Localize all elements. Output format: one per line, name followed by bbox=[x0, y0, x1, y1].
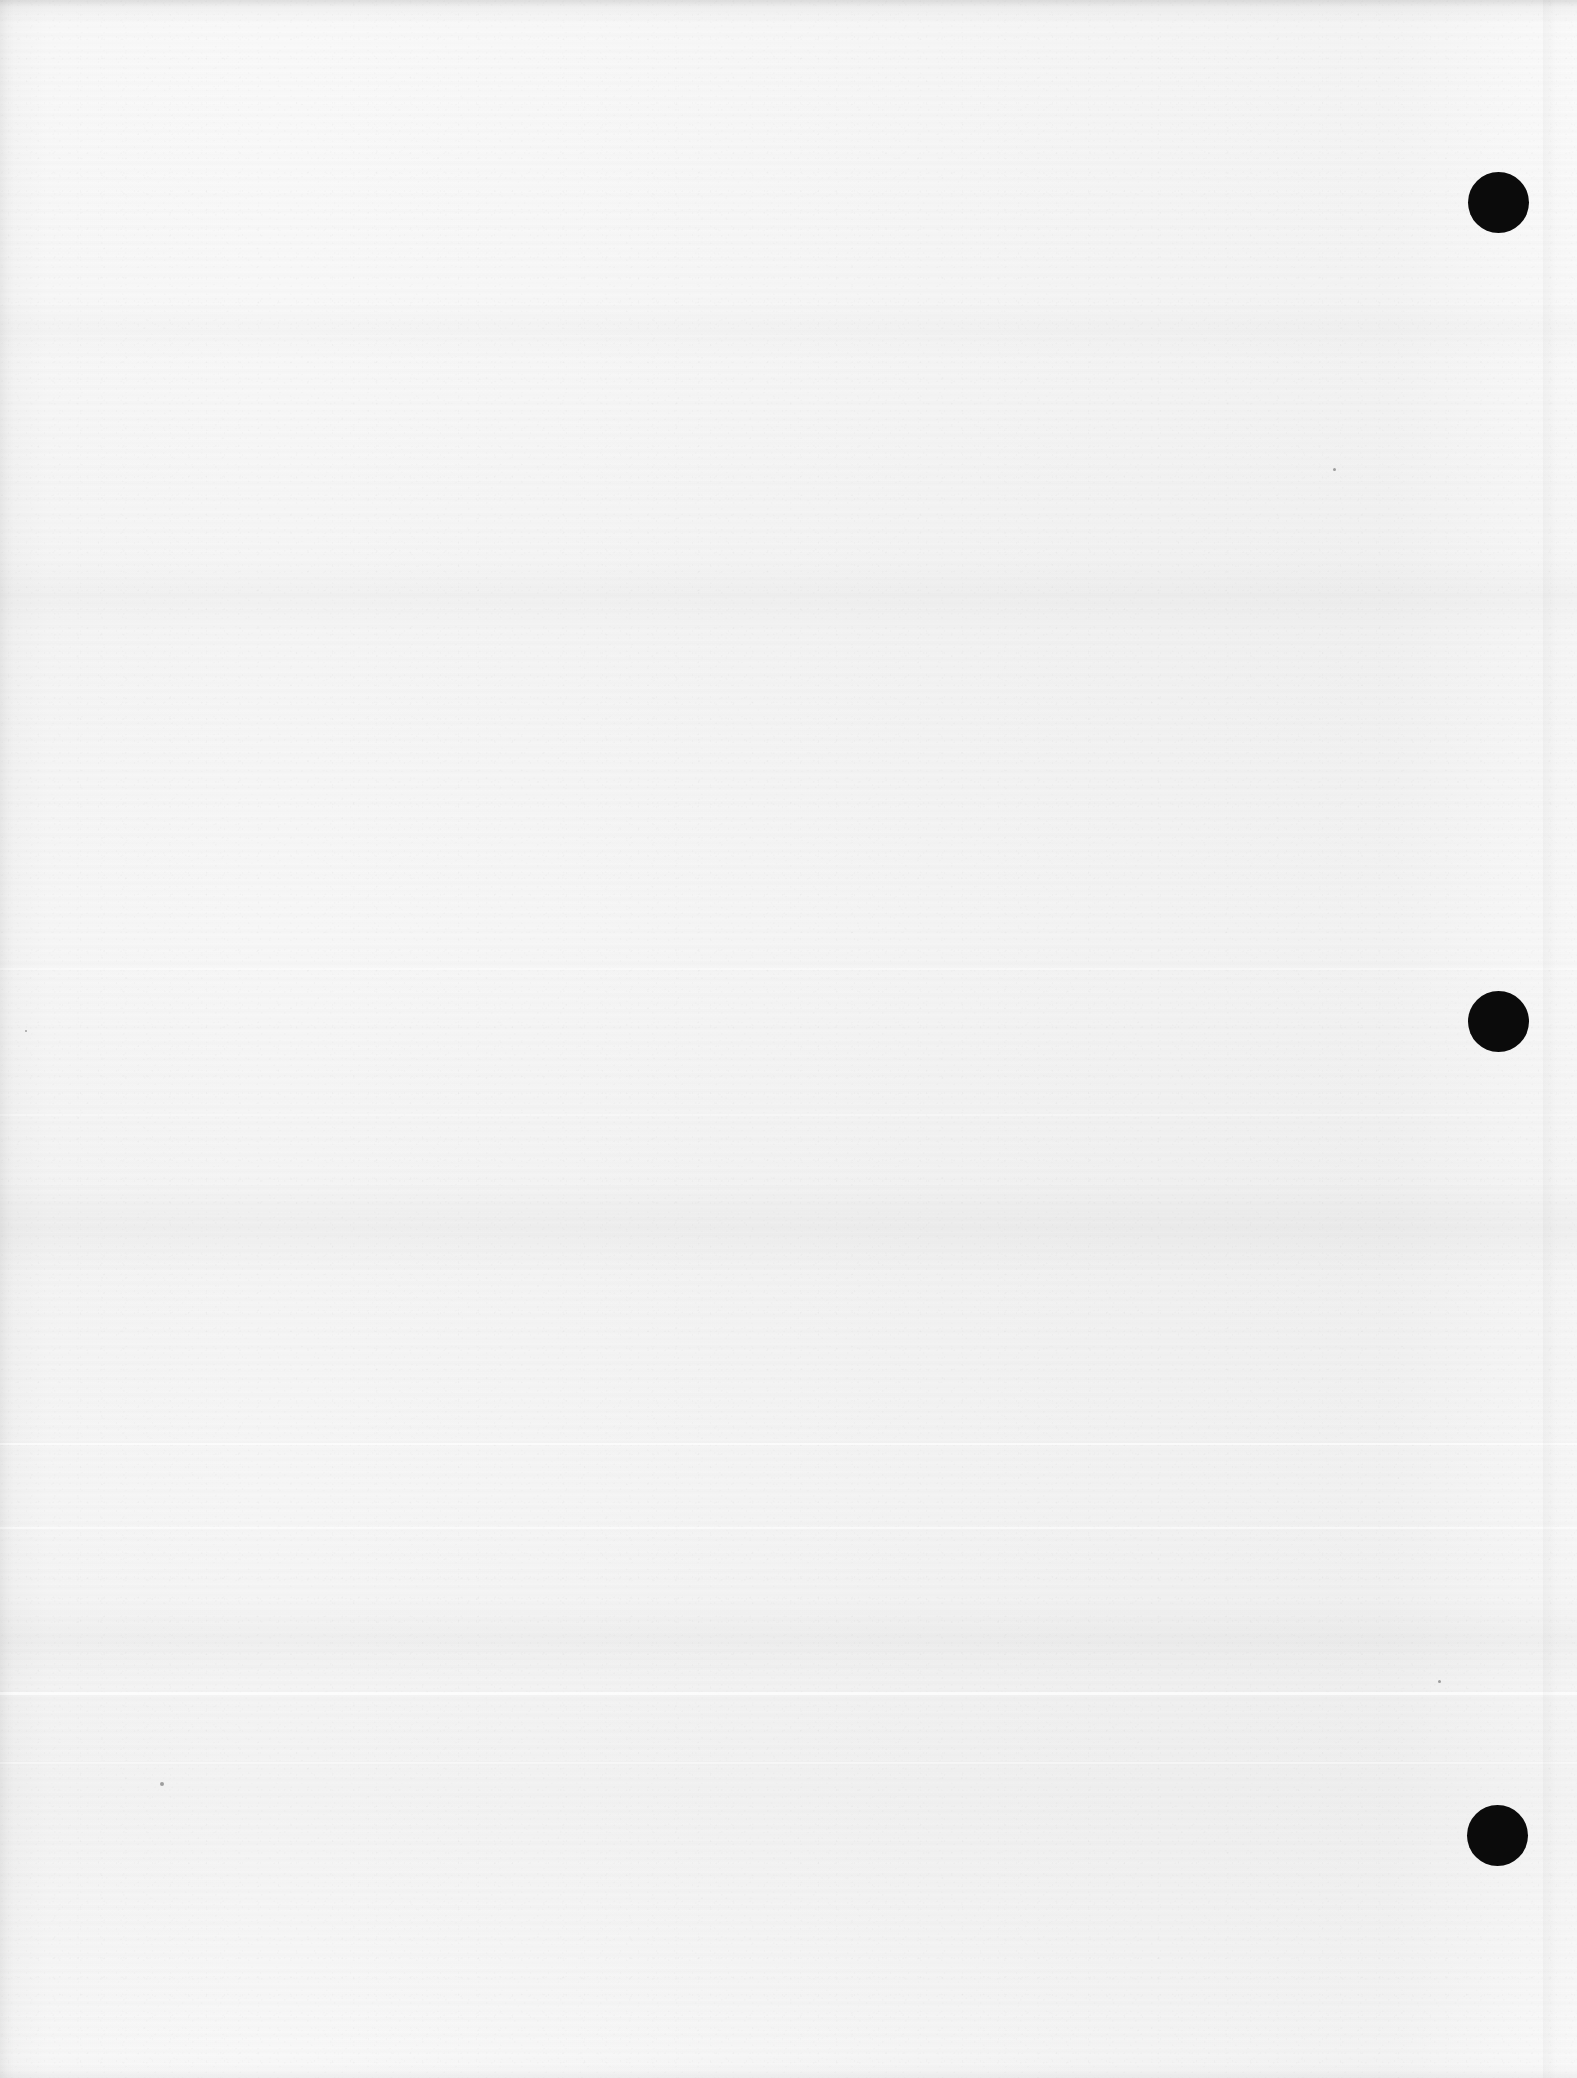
page-edge-right bbox=[1543, 0, 1577, 2078]
punch-mark-top bbox=[1468, 172, 1529, 233]
scanned-page bbox=[0, 0, 1577, 2078]
page-edge-bottom bbox=[0, 2068, 1577, 2078]
scan-speck-0 bbox=[160, 1782, 164, 1786]
page-edge-top bbox=[0, 0, 1577, 9]
scan-speck-3 bbox=[25, 1030, 27, 1032]
punch-mark-bottom bbox=[1467, 1805, 1528, 1866]
scan-speck-2 bbox=[1438, 1680, 1441, 1683]
scan-banding-texture bbox=[0, 0, 1577, 2078]
page-edge-left bbox=[0, 0, 14, 2078]
punch-mark-middle bbox=[1468, 991, 1529, 1052]
scan-speck-1 bbox=[1333, 468, 1336, 471]
